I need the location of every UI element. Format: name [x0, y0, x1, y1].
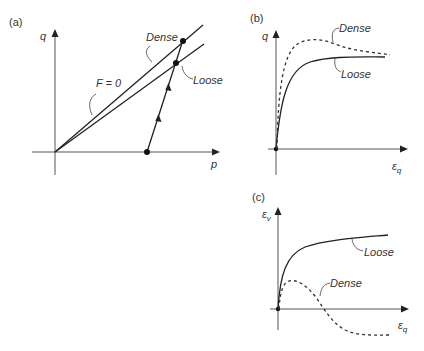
panel-a-loose-line: [55, 44, 204, 152]
panel-b-y-axis-arrow-icon: [273, 30, 280, 38]
panel-c-epsq-label: εq: [398, 319, 408, 334]
panel-b: (b) q εq Dense Loose: [250, 12, 408, 175]
panel-a-loose-point: [173, 60, 179, 66]
panel-b-q-label: q: [262, 30, 269, 42]
panel-b-eps-label: εq: [392, 160, 402, 175]
panel-c-dense-label: Dense: [330, 277, 362, 289]
panel-a-f0-label: F = 0: [96, 77, 122, 89]
panel-a-q-label: q: [40, 30, 47, 42]
panel-a-loose-leader: [182, 66, 193, 79]
panel-b-dense-leader: [332, 28, 339, 42]
panel-a-p-axis-arrow-icon: [212, 149, 220, 156]
panel-c-loose-label: Loose: [364, 246, 394, 258]
panel-a-start-point: [144, 149, 150, 155]
panel-c-epsq-subscript: q: [403, 325, 408, 334]
panel-b-x-axis-arrow-icon: [400, 146, 408, 153]
panel-b-eps-subscript: q: [397, 166, 402, 175]
figure-canvas: (a) q p Dense Loose F = 0 (b) q εq: [0, 0, 424, 351]
panel-a-path-arrow-2-icon: [155, 114, 161, 122]
panel-c-loose-leader: [352, 239, 363, 251]
panel-c-epsv-label: εv: [262, 208, 272, 223]
panel-a-dense-leader: [146, 46, 152, 62]
panel-a-path-arrow-1-icon: [165, 83, 171, 91]
panel-b-tag: (b): [250, 12, 263, 24]
panel-c: (c) εv εq Loose Dense: [252, 191, 409, 335]
panel-a-dense-line: [55, 25, 203, 152]
panel-c-epsv-subscript: v: [267, 214, 272, 223]
panel-a-tag: (a): [9, 16, 22, 28]
panel-b-loose-label: Loose: [341, 68, 371, 80]
panel-c-x-axis-arrow-icon: [401, 306, 409, 313]
panel-a-f0-leader: [90, 94, 96, 115]
panel-a-loose-label: Loose: [193, 74, 223, 86]
panel-a-dense-label: Dense: [146, 31, 178, 43]
panel-a-dense-point: [180, 38, 186, 44]
panel-c-y-axis-arrow-icon: [275, 207, 282, 215]
panel-a: (a) q p Dense Loose F = 0: [9, 16, 223, 175]
panel-a-p-label: p: [210, 158, 217, 170]
panel-c-tag: (c): [252, 191, 265, 203]
panel-b-dense-curve: [277, 40, 390, 149]
panel-b-dense-label: Dense: [339, 22, 371, 34]
panel-c-dense-leader: [320, 283, 330, 296]
panel-a-q-axis-arrow-icon: [52, 29, 59, 37]
